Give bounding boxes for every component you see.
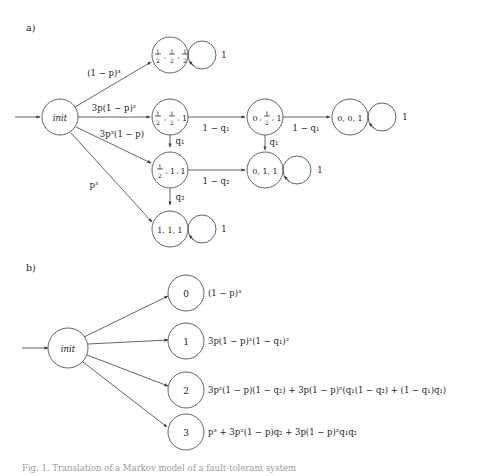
panel-b-edge-init-to-outcome-1 xyxy=(88,340,168,344)
panel-a-edge-label-half-one-one-zero-one-one: 1 − q₂ xyxy=(203,176,230,186)
panel-a-edge-label-init-half-one-one: 3p²(1 − p) xyxy=(100,129,144,139)
panel-b-node-outcome-0[interactable]: 0 xyxy=(168,275,204,311)
panel-a-node-half-half-one[interactable]: 1 2 , 1 2 , 1 xyxy=(152,99,188,135)
svg-text:2: 2 xyxy=(156,57,160,64)
svg-text:2: 2 xyxy=(183,57,187,64)
svg-text:1: 1 xyxy=(170,167,175,176)
panel-b-label: b) xyxy=(26,262,36,273)
panel-a-edge-label-half-half-one-half-one-one: q₁ xyxy=(176,136,185,146)
panel-a-node-zero-one-one[interactable]: 0, 1, 1 xyxy=(247,152,283,188)
panel-a-selfloop-label-half-half-half: 1 xyxy=(221,50,226,60)
figure-caption: Fig. 1. Translation of a Markov model of… xyxy=(22,462,467,474)
panel-a-init-label: init xyxy=(53,113,68,123)
panel-b-node-outcome-2[interactable]: 2 xyxy=(168,372,204,408)
panel-b-node-outcome-3[interactable]: 3 xyxy=(168,414,204,450)
panel-a-node-zero-half-one-label: 0 , 1 2 , 1 xyxy=(252,110,281,126)
svg-text:1: 1 xyxy=(182,114,187,123)
figure-root: a) init (1 − p)³ 3p(1 − p)² 3p²(1 − p) p… xyxy=(0,0,484,476)
svg-text:2: 2 xyxy=(170,119,174,126)
panel-a-node-zero-one-one-label: 0, 1, 1 xyxy=(252,167,277,176)
panel-b-edge-init-to-outcome-2 xyxy=(87,355,168,386)
panel-b-node-init[interactable]: init xyxy=(48,328,88,368)
panel-a-node-zero-half-one[interactable]: 0 , 1 2 , 1 xyxy=(247,99,283,135)
panel-a-selfloop-zero-one-one xyxy=(283,156,311,184)
panel-a-selfloop-label-one-one-one: 1 xyxy=(221,224,226,234)
panel-a-selfloop-one-one-one xyxy=(188,215,216,243)
panel-a-node-zero-zero-one-label: 0, 0, 1 xyxy=(337,114,362,123)
panel-b-outcome-3-formula: p³ + 3p²(1 − p)q₂ + 3p(1 − p)²q₁q₂ xyxy=(208,427,357,437)
svg-text:,: , xyxy=(177,114,179,122)
panel-b-outcome-1-formula: 3p(1 − p)²(1 − q₁)² xyxy=(208,336,289,346)
panel-a-node-half-half-one-label: 1 2 , 1 2 , 1 xyxy=(155,110,187,126)
svg-text:,: , xyxy=(177,52,179,60)
panel-a-selfloop-arrow-half-half-half xyxy=(189,61,194,66)
panel-b-edge-init-to-outcome-3 xyxy=(83,362,167,427)
svg-text:,: , xyxy=(259,114,261,122)
svg-text:1: 1 xyxy=(170,48,174,55)
panel-a-selfloop-zero-zero-one xyxy=(368,103,396,131)
panel-b-outcome-2-formula: 3p²(1 − p)(1 − q₂) + 3p(1 − p)²(q₁(1 − q… xyxy=(208,385,446,395)
panel-a-node-half-half-half[interactable]: 1 2 , 1 2 , 1 2 xyxy=(152,37,188,73)
panel-b-outcome-1-label: 1 xyxy=(183,337,189,347)
panel-a-selfloop-arrow-zero-zero-one xyxy=(369,123,374,128)
svg-text:1: 1 xyxy=(156,110,160,117)
svg-text:,: , xyxy=(164,52,166,60)
svg-text:,: , xyxy=(165,167,167,175)
svg-text:,: , xyxy=(164,114,166,122)
panel-b-outcome-2-label: 2 xyxy=(183,386,189,396)
panel-a-edge-label-zero-half-one-zero-one-one: q₁ xyxy=(270,137,279,147)
svg-text:1: 1 xyxy=(180,167,185,176)
svg-text:2: 2 xyxy=(156,119,160,126)
svg-text:1: 1 xyxy=(170,110,174,117)
panel-b-outcome-0-formula: (1 − p)³ xyxy=(208,288,241,298)
panel-a-edge-label-init-one-one-one: p³ xyxy=(90,180,99,190)
panel-a-node-one-one-one[interactable]: 1, 1, 1 xyxy=(152,211,188,247)
panel-a-edge-label-zero-half-one-zero-zero-one: 1 − q₁ xyxy=(293,123,320,133)
svg-text:,: , xyxy=(176,167,178,175)
panel-a-edge-label-half-one-one-one-one-one: q₂ xyxy=(176,192,185,202)
svg-text:1: 1 xyxy=(156,48,160,55)
panel-a-selfloop-arrow-zero-one-one xyxy=(284,176,289,181)
panel-b-node-outcome-1[interactable]: 1 xyxy=(168,323,204,359)
panel-a-edge-label-half-half-one-zero-half-one: 1 − q₁ xyxy=(203,123,230,133)
panel-a-node-one-one-one-label: 1, 1, 1 xyxy=(157,226,182,235)
panel-a-node-half-one-one[interactable]: 1 2 , 1 , 1 xyxy=(152,152,188,188)
panel-a-edge-init-to-one-one-one xyxy=(71,133,152,222)
panel-b-edge-init-to-outcome-0 xyxy=(84,296,168,337)
panel-a-node-zero-zero-one[interactable]: 0, 0, 1 xyxy=(332,99,368,135)
svg-text:1: 1 xyxy=(183,48,187,55)
panel-b-outcome-0-label: 0 xyxy=(183,289,189,299)
panel-a-label: a) xyxy=(26,22,35,33)
svg-text:2: 2 xyxy=(170,57,174,64)
panel-a-selfloop-label-zero-one-one: 1 xyxy=(317,165,322,175)
panel-b-init-label: init xyxy=(61,344,76,354)
svg-text:1: 1 xyxy=(158,163,162,170)
panel-a-node-half-half-half-circle xyxy=(152,37,188,73)
svg-text:2: 2 xyxy=(158,172,162,179)
panel-b-outcome-3-label: 3 xyxy=(183,428,189,438)
panel-a-node-half-one-one-label: 1 2 , 1 , 1 xyxy=(157,163,186,179)
panel-a-node-half-half-half-label: 1 2 , 1 2 , 1 2 xyxy=(155,48,188,64)
panel-a-selfloop-arrow-one-one-one xyxy=(189,235,194,240)
svg-text:,: , xyxy=(272,114,274,122)
svg-text:2: 2 xyxy=(265,119,269,126)
svg-text:1: 1 xyxy=(265,110,269,117)
panel-a-selfloop-label-zero-zero-one: 1 xyxy=(402,112,407,122)
panel-a: a) init (1 − p)³ 3p(1 − p)² 3p²(1 − p) p… xyxy=(15,22,408,247)
panel-a-selfloop-half-half-half xyxy=(188,41,216,69)
panel-a-node-init[interactable]: init xyxy=(42,99,78,135)
panel-a-edge-label-init-half-half-half: (1 − p)³ xyxy=(87,68,120,78)
panel-b: b) init 0 (1 − p)³ 1 3p(1 − p)²(1 − q₁)² xyxy=(22,262,446,450)
svg-text:1: 1 xyxy=(276,114,281,123)
figure-svg: a) init (1 − p)³ 3p(1 − p)² 3p²(1 − p) p… xyxy=(0,0,484,476)
svg-text:0: 0 xyxy=(252,114,257,123)
panel-a-edge-label-init-half-half-one: 3p(1 − p)² xyxy=(92,103,136,113)
